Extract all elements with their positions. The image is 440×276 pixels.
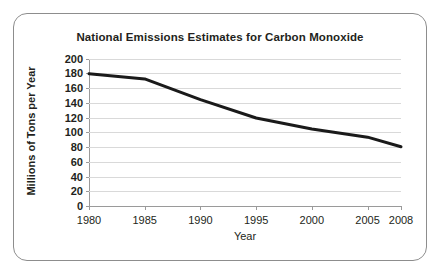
- y-tick-label: 60: [71, 156, 83, 168]
- x-tick-mark: [256, 206, 257, 210]
- x-tick-mark: [368, 206, 369, 210]
- y-tick-label: 140: [65, 97, 83, 109]
- x-tick-label: 1990: [188, 214, 212, 226]
- y-tick-label: 120: [65, 112, 83, 124]
- plot-area: 200180160140120100806040200 198019851990…: [89, 59, 401, 207]
- series-polyline: [89, 73, 401, 146]
- chart-frame: National Emissions Estimates for Carbon …: [13, 13, 427, 261]
- y-axis-title: Millions of Tons per Year: [25, 66, 37, 195]
- y-tick-label: 180: [65, 67, 83, 79]
- x-tick-label: 1995: [244, 214, 268, 226]
- gridline: [89, 206, 401, 207]
- x-tick-mark: [89, 206, 90, 210]
- x-tick-mark: [312, 206, 313, 210]
- y-tick-label: 40: [71, 171, 83, 183]
- x-tick-mark: [200, 206, 201, 210]
- x-tick-mark: [145, 206, 146, 210]
- chart-title: National Emissions Estimates for Carbon …: [14, 31, 426, 43]
- y-tick-label: 80: [71, 141, 83, 153]
- x-tick-label: 1980: [77, 214, 101, 226]
- x-tick-label: 2008: [389, 214, 413, 226]
- line-series: [89, 59, 401, 207]
- y-tick-label: 20: [71, 185, 83, 197]
- y-tick-label: 200: [65, 53, 83, 65]
- x-tick-mark: [401, 206, 402, 210]
- x-axis-title: Year: [89, 230, 401, 242]
- y-tick-label: 0: [77, 200, 83, 212]
- x-tick-label: 1985: [132, 214, 156, 226]
- y-tick-label: 160: [65, 82, 83, 94]
- x-tick-label: 2005: [355, 214, 379, 226]
- x-tick-label: 2000: [300, 214, 324, 226]
- y-tick-label: 100: [65, 126, 83, 138]
